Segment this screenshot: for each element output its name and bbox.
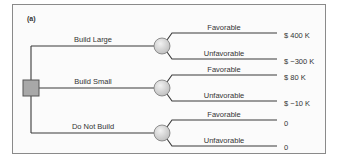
outcome-label: Favorable (207, 66, 240, 74)
outcome-label: Unfavorable (204, 137, 244, 145)
decision-tree (0, 0, 342, 166)
payoff-value: $ −10 K (284, 100, 310, 108)
payoff-value: $ 80 K (284, 74, 306, 82)
decision-branches (31, 46, 154, 133)
alternative-label-build-large: Build Large (74, 36, 112, 44)
payoff-value: $ 400 K (284, 32, 310, 40)
panel-label: (a) (27, 15, 36, 22)
alternative-label-build-small: Build Small (74, 78, 112, 86)
chance-node-build-small (154, 80, 170, 96)
chance-node-do-not-build (154, 125, 170, 141)
outcome-label: Favorable (207, 24, 240, 32)
payoff-value: 0 (284, 144, 288, 152)
chance-node-build-large (154, 38, 170, 54)
payoff-value: $ −300 K (284, 58, 314, 66)
outcome-label: Unfavorable (204, 92, 244, 100)
outcome-label: Favorable (207, 111, 240, 119)
outcome-label: Unfavorable (204, 50, 244, 58)
decision-node-square (23, 80, 39, 96)
alternative-label-do-not-build: Do Not Build (72, 123, 114, 131)
payoff-value: 0 (284, 120, 288, 128)
